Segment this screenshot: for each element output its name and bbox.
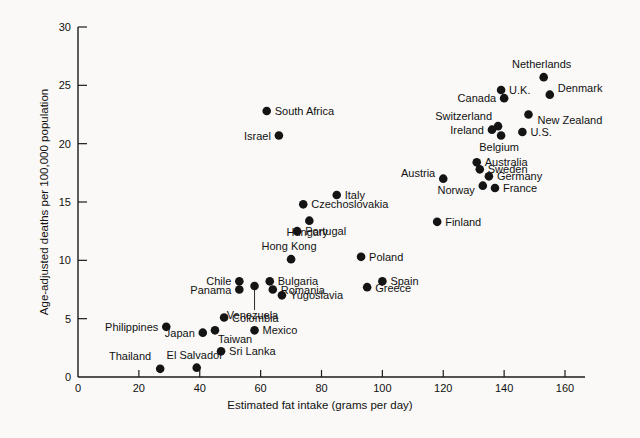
data-point-marker xyxy=(265,277,274,286)
data-point-marker xyxy=(269,285,278,294)
data-point-marker xyxy=(479,181,488,190)
data-point-label: U.S. xyxy=(530,126,551,138)
data-point-label: Switzerland xyxy=(435,110,492,122)
data-point-marker xyxy=(494,122,503,131)
data-point-label: Finland xyxy=(445,216,481,228)
x-tick-label: 80 xyxy=(315,382,327,394)
data-point-label: Chile xyxy=(206,275,231,287)
data-point-label: El Salvador xyxy=(167,349,224,361)
x-tick-label: 60 xyxy=(255,382,267,394)
data-point-marker xyxy=(235,277,244,286)
data-point-marker xyxy=(545,90,554,99)
data-point-marker xyxy=(524,110,533,119)
data-point-label: Sri Lanka xyxy=(229,345,276,357)
x-tick-label: 140 xyxy=(495,382,513,394)
data-point-label: Belgium xyxy=(479,141,519,153)
y-tick-label: 5 xyxy=(65,313,71,325)
data-point-label: Norway xyxy=(438,184,476,196)
data-point-label: Bulgaria xyxy=(278,275,319,287)
data-point-marker xyxy=(156,365,165,374)
data-point-marker xyxy=(217,347,226,356)
data-point-marker xyxy=(250,282,259,291)
data-point-marker xyxy=(332,191,341,200)
data-point-marker xyxy=(198,328,207,337)
data-point-marker xyxy=(192,363,201,372)
data-point-label: Italy xyxy=(345,189,366,201)
data-point-marker xyxy=(539,73,548,82)
data-point-label: Israel xyxy=(244,130,271,142)
data-point-label: Venezuela xyxy=(227,309,279,321)
y-tick-label: 0 xyxy=(65,371,71,383)
y-tick-label: 20 xyxy=(59,138,71,150)
x-axis-title: Estimated fat intake (grams per day) xyxy=(227,399,413,411)
data-point-marker xyxy=(363,283,372,292)
scatter-chart: 020406080100120140160051015202530 Thaila… xyxy=(0,0,640,438)
plot-canvas: 020406080100120140160051015202530 Thaila… xyxy=(0,0,640,438)
data-point-marker xyxy=(491,184,500,193)
x-tick-label: 100 xyxy=(373,382,391,394)
data-point-marker xyxy=(472,158,481,167)
data-point-label: Poland xyxy=(369,251,403,263)
data-point-marker xyxy=(497,86,506,95)
data-point-label: Spain xyxy=(390,275,418,287)
y-axis-title: Age-adjusted deaths per 100,000 populati… xyxy=(38,89,50,315)
data-point-label: France xyxy=(503,182,537,194)
data-point-marker xyxy=(305,216,314,225)
data-point-marker xyxy=(378,277,387,286)
data-point-label: Hungary xyxy=(287,226,329,238)
x-tick-label: 120 xyxy=(434,382,452,394)
data-point-marker xyxy=(262,107,271,116)
y-tick-label: 25 xyxy=(59,79,71,91)
data-point-marker xyxy=(357,253,366,262)
data-point-marker xyxy=(518,128,527,137)
data-point-label: Hong Kong xyxy=(262,240,317,252)
data-point-label: U.K. xyxy=(509,84,530,96)
x-tick-label: 0 xyxy=(75,382,81,394)
x-tick-label: 40 xyxy=(194,382,206,394)
y-tick-label: 10 xyxy=(59,254,71,266)
data-point-label: Canada xyxy=(458,92,497,104)
data-point-label: Philippines xyxy=(105,321,159,333)
data-point-label: New Zealand xyxy=(537,114,602,126)
data-point-marker xyxy=(287,255,296,264)
data-point-marker xyxy=(439,174,448,183)
data-point-marker xyxy=(299,200,308,209)
data-point-label: Denmark xyxy=(558,82,603,94)
data-points: ThailandEl SalvadorSri LankaJapanTaiwanP… xyxy=(105,58,603,373)
data-point-label: Australia xyxy=(485,156,529,168)
y-tick-label: 30 xyxy=(59,21,71,33)
data-point-label: Thailand xyxy=(109,350,151,362)
data-point-marker xyxy=(497,131,506,140)
data-point-label: Mexico xyxy=(263,324,298,336)
x-tick-label: 160 xyxy=(556,382,574,394)
data-point-label: South Africa xyxy=(275,105,335,117)
data-point-marker xyxy=(162,323,171,332)
x-tick-label: 20 xyxy=(133,382,145,394)
data-point-marker xyxy=(250,326,259,335)
data-point-marker xyxy=(433,218,442,227)
data-point-marker xyxy=(275,131,284,140)
data-point-label: Netherlands xyxy=(512,58,572,70)
y-tick-label: 15 xyxy=(59,196,71,208)
data-point-label: Austria xyxy=(401,167,436,179)
data-point-marker xyxy=(235,285,244,294)
data-point-label: Ireland xyxy=(450,124,484,136)
data-point-marker xyxy=(500,94,509,103)
data-point-label: Taiwan xyxy=(218,333,252,345)
